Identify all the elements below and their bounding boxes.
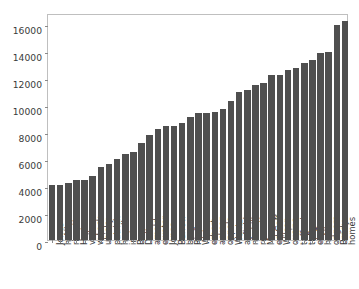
x-axis-tick-mark xyxy=(288,240,289,243)
x-axis-tick-label: homes xyxy=(348,217,356,245)
x-axis-tick-mark xyxy=(345,240,346,243)
bar xyxy=(277,75,284,240)
x-axis-tick-mark xyxy=(52,240,53,243)
x-axis-tick-mark xyxy=(321,240,322,243)
bar xyxy=(293,68,300,240)
x-axis-tick-mark xyxy=(60,240,61,243)
y-axis-tick-label: 12000 xyxy=(13,79,48,88)
x-axis-tick-mark xyxy=(85,240,86,243)
x-axis-tick-mark xyxy=(158,240,159,243)
x-axis-tick-mark xyxy=(142,240,143,243)
bar xyxy=(342,21,349,240)
y-axis-tick-label: 2000 xyxy=(19,215,48,224)
x-axis-tick-mark xyxy=(264,240,265,243)
bar xyxy=(301,63,308,240)
y-axis-tick-label: 6000 xyxy=(19,161,48,170)
bar xyxy=(285,70,292,240)
x-axis-tick-mark xyxy=(174,240,175,243)
bar xyxy=(325,52,332,240)
x-axis-tick-mark xyxy=(93,240,94,243)
y-axis-tick-label: 10000 xyxy=(13,106,48,115)
x-axis-tick-mark xyxy=(304,240,305,243)
figure-canvas: 0200040006000800010000120001400016000Jon… xyxy=(0,0,359,289)
bar xyxy=(309,60,316,240)
bar xyxy=(317,53,324,240)
plot-area: 0200040006000800010000120001400016000Jon… xyxy=(48,15,347,240)
y-axis-tick-label: 8000 xyxy=(19,133,48,142)
x-axis-tick-mark xyxy=(199,240,200,243)
x-axis-tick-mark xyxy=(133,240,134,243)
x-axis-tick-mark xyxy=(101,240,102,243)
y-axis-tick-label: 0 xyxy=(36,242,48,251)
x-axis-tick-mark xyxy=(239,240,240,243)
x-axis-tick-mark xyxy=(68,240,69,243)
x-axis-tick-mark xyxy=(272,240,273,243)
plot-axes: 0200040006000800010000120001400016000Jon… xyxy=(47,14,348,241)
x-axis-tick-mark xyxy=(76,240,77,243)
x-axis-tick-mark xyxy=(117,240,118,243)
y-axis-tick-label: 16000 xyxy=(13,25,48,34)
x-axis-tick-mark xyxy=(280,240,281,243)
x-axis-tick-mark xyxy=(190,240,191,243)
x-axis-tick-mark xyxy=(312,240,313,243)
x-axis-tick-mark xyxy=(255,240,256,243)
x-axis-tick-mark xyxy=(207,240,208,243)
x-axis-tick-mark xyxy=(337,240,338,243)
x-axis-tick-mark xyxy=(296,240,297,243)
x-axis-tick-mark xyxy=(166,240,167,243)
x-axis-tick-mark xyxy=(223,240,224,243)
y-axis-tick-label: 4000 xyxy=(19,188,48,197)
x-axis-tick-mark xyxy=(329,240,330,243)
x-axis-tick-mark xyxy=(109,240,110,243)
x-axis-tick-mark xyxy=(215,240,216,243)
y-axis-tick-label: 14000 xyxy=(13,52,48,61)
x-axis-tick-mark xyxy=(247,240,248,243)
x-axis-tick-mark xyxy=(231,240,232,243)
x-axis-tick-mark xyxy=(150,240,151,243)
x-axis-tick-mark xyxy=(182,240,183,243)
bar xyxy=(334,25,341,240)
x-axis-tick-mark xyxy=(125,240,126,243)
